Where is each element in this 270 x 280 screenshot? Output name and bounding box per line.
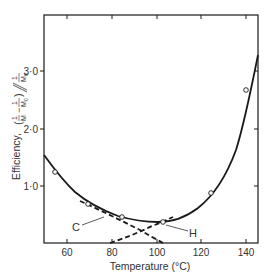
- efficiency-vs-temperature-chart: 60 80 100 120 140 1·0 2·0 3·0 Temperatur…: [0, 0, 270, 280]
- data-point: [86, 202, 91, 207]
- x-tick-80: 80: [106, 247, 118, 258]
- svg-text:1: 1: [11, 76, 18, 80]
- svg-text:0: 0: [23, 73, 29, 76]
- x-tick-60: 60: [61, 247, 73, 258]
- curve-h-leader-line: [166, 225, 188, 231]
- x-tick-100: 100: [149, 247, 166, 258]
- data-point: [53, 170, 58, 175]
- data-points: [53, 88, 249, 225]
- total-efficiency-curve: [44, 55, 258, 222]
- curve-h-label: H: [189, 227, 197, 239]
- data-point: [161, 220, 166, 225]
- data-point: [244, 88, 249, 93]
- curve-c-leader-line: [82, 217, 104, 225]
- svg-text:0: 0: [23, 98, 29, 101]
- svg-text:1: 1: [11, 101, 18, 105]
- y-tick-1: 1·0: [24, 181, 39, 192]
- x-axis-title: Temperature (°C): [110, 260, 191, 272]
- y-axis-formula: ( 1 M − 1 M 0 ) 1 M 0: [11, 73, 29, 125]
- data-point: [209, 191, 214, 196]
- plot-frame: [44, 15, 258, 243]
- data-point: [120, 215, 125, 220]
- svg-text:): ): [12, 93, 24, 97]
- x-tick-140: 140: [238, 247, 255, 258]
- right-ticks: [254, 71, 258, 186]
- svg-text:−: −: [14, 108, 24, 113]
- x-tick-120: 120: [193, 247, 210, 258]
- x-axis-ticks: [67, 239, 246, 243]
- curve-c-label: C: [72, 221, 80, 233]
- svg-text:1: 1: [11, 116, 18, 120]
- y-tick-2: 2·0: [24, 124, 39, 135]
- svg-text:M: M: [20, 115, 27, 121]
- y-axis-title-prefix: Efficiency,: [10, 133, 22, 180]
